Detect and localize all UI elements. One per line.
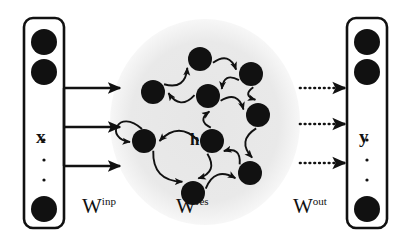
output-node <box>354 196 380 222</box>
input-weight-superscript: inp <box>102 195 116 207</box>
reservoir-weight-superscript: res <box>196 195 209 207</box>
reservoir-node <box>239 62 263 86</box>
input-vector-label: x <box>36 127 46 146</box>
reservoir-node <box>200 129 224 153</box>
output-ellipsis-dot <box>365 178 368 181</box>
reservoir-node <box>141 80 165 104</box>
output-weight-label: Wout <box>293 196 327 217</box>
output-node <box>354 59 380 85</box>
input-vector-box <box>24 18 64 228</box>
input-node <box>31 59 57 85</box>
input-ellipsis-dot <box>42 158 45 161</box>
reservoir-weight-label: Wres <box>176 196 209 217</box>
reservoir-node <box>196 84 220 108</box>
input-node <box>31 196 57 222</box>
reservoir-node <box>238 161 262 185</box>
reservoir-state-label: h <box>190 131 199 148</box>
input-ellipsis-dot <box>42 178 45 181</box>
input-weight-arrows <box>64 88 120 166</box>
output-vector-label: y <box>359 127 369 146</box>
input-node <box>31 29 57 55</box>
input-weight-label: Winp <box>82 196 116 217</box>
reservoir-weight-letter: W <box>176 194 196 218</box>
output-weight-superscript: out <box>313 195 327 207</box>
output-weight-arrows <box>300 88 345 163</box>
reservoir-node <box>188 47 212 71</box>
reservoir-node <box>132 129 156 153</box>
figure-canvas: x h y Winp Wres Wout <box>0 0 400 246</box>
output-weight-letter: W <box>293 194 313 218</box>
input-arrow-group <box>64 88 120 166</box>
output-ellipsis-dot <box>365 158 368 161</box>
reservoir-node <box>246 103 270 127</box>
output-node <box>354 29 380 55</box>
output-vector-box <box>347 18 387 228</box>
input-weight-letter: W <box>82 194 102 218</box>
